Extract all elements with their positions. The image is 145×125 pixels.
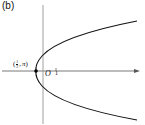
panel-label: (b): [2, 1, 14, 11]
parabola-curve: [36, 21, 137, 120]
paren-open: (: [13, 61, 15, 68]
vertex-point-label: ( 1 2 , π ): [13, 60, 28, 69]
fraction-one-half: 1 2: [16, 60, 18, 69]
denominator: 2: [16, 65, 18, 69]
unit-tick-label: 1: [55, 70, 58, 76]
x-axis-arrow-icon: [134, 69, 140, 73]
paren-close: ): [26, 61, 28, 68]
vertex-point: [34, 69, 38, 73]
separator: ,: [19, 61, 21, 68]
origin-label: O: [45, 70, 51, 78]
